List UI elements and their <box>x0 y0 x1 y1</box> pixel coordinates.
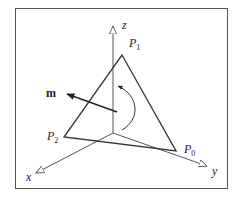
vertex-label-p2: P2 <box>47 130 58 145</box>
diagram-canvas <box>0 0 241 201</box>
x-axis-label: x <box>26 171 31 183</box>
rotation-arrow <box>118 86 135 130</box>
z-axis-label: z <box>122 19 127 31</box>
y-axis-label: y <box>212 165 217 177</box>
normal-vector-label: m <box>46 87 56 99</box>
triangle-face <box>64 55 176 151</box>
vertex-label-p0: P0 <box>184 143 195 158</box>
vertex-label-p1: P1 <box>129 37 140 52</box>
